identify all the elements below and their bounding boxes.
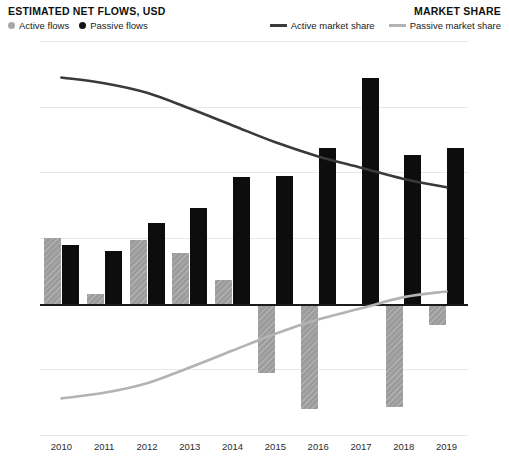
- legend-label-passive-flows: Passive flows: [90, 20, 148, 31]
- chart-root: ESTIMATED NET FLOWS, USD MARKET SHARE Ac…: [0, 0, 509, 458]
- line-active-market-share: [61, 78, 446, 188]
- circle-black-icon: [79, 22, 86, 29]
- x-axis-tick-2014: 2014: [222, 441, 243, 452]
- x-axis-tick-2011: 2011: [94, 441, 114, 452]
- market-share-lines: [40, 41, 468, 435]
- legend-label-active-flows: Active flows: [19, 20, 69, 31]
- legend-item-active-flows: Active flows: [8, 20, 69, 31]
- x-axis-tick-2018: 2018: [393, 441, 414, 452]
- gridline: [40, 435, 468, 436]
- x-axis-tick-2010: 2010: [51, 441, 72, 452]
- x-axis-tick-2016: 2016: [308, 441, 329, 452]
- plot-area: $800B$600B$400B$200B$0-$200B-$400B85%75%…: [40, 41, 468, 435]
- x-axis-tick-2012: 2012: [136, 441, 157, 452]
- legend-item-passive-share: Passive market share: [389, 20, 501, 31]
- circle-gray-icon: [8, 22, 15, 29]
- chart-title-left: ESTIMATED NET FLOWS, USD: [8, 5, 165, 17]
- legend-label-active-share: Active market share: [291, 20, 375, 31]
- legend-item-active-share: Active market share: [270, 20, 375, 31]
- legend-item-passive-flows: Passive flows: [79, 20, 148, 31]
- x-axis-tick-2015: 2015: [265, 441, 286, 452]
- legend-label-passive-share: Passive market share: [410, 20, 501, 31]
- line-light-icon: [389, 24, 406, 27]
- x-axis-tick-2017: 2017: [350, 441, 371, 452]
- x-axis-tick-2019: 2019: [436, 441, 457, 452]
- legend-flows: Active flows Passive flows: [8, 20, 148, 31]
- line-passive-market-share: [61, 291, 446, 398]
- chart-title-right: MARKET SHARE: [414, 5, 501, 17]
- legend-market-share: Active market share Passive market share: [270, 20, 501, 31]
- x-axis-tick-2013: 2013: [179, 441, 200, 452]
- line-dark-icon: [270, 24, 287, 27]
